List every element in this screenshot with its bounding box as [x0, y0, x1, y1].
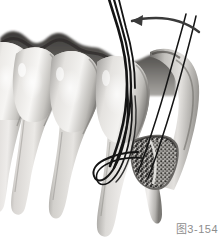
figure-caption: 图3-154	[176, 224, 218, 235]
dental-illustration	[0, 0, 222, 239]
dental-figure-container: 图3-154	[0, 0, 222, 239]
